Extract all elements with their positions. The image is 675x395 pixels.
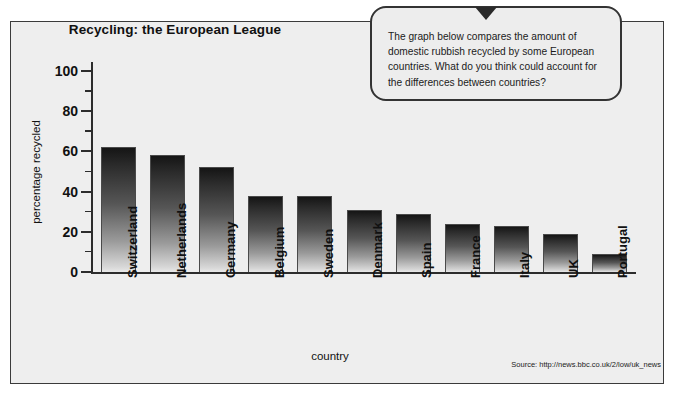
category-label-portugal: Portugal xyxy=(615,225,630,278)
worksheet-page: Recycling: the European League percentag… xyxy=(0,0,675,395)
category-label-germany: Germany xyxy=(223,222,238,278)
y-tick-label: 60 xyxy=(62,143,78,159)
y-axis-label: percentage recycled xyxy=(30,120,42,224)
y-tick-label: 20 xyxy=(62,224,78,240)
category-label-netherlands: Netherlands xyxy=(174,203,189,278)
category-label-belgium: Belgium xyxy=(272,227,287,278)
y-tick-major xyxy=(81,191,92,193)
y-tick-major xyxy=(81,150,92,152)
x-axis-label: country xyxy=(311,350,349,362)
source-caption: Source: http://news.bbc.co.uk/2/low/uk_n… xyxy=(511,360,661,369)
y-tick-minor xyxy=(85,90,92,92)
chart-title: Recycling: the European League xyxy=(0,22,350,37)
category-label-denmark: Denmark xyxy=(370,222,385,278)
y-tick-major xyxy=(81,70,92,72)
instruction-text: The graph below compares the amount of d… xyxy=(388,29,608,90)
category-label-switzerland: Switzerland xyxy=(125,206,140,278)
y-tick-major xyxy=(81,110,92,112)
x-axis-line xyxy=(91,272,636,274)
y-tick-minor xyxy=(85,171,92,173)
y-tick-label: 100 xyxy=(55,63,78,79)
category-label-italy: Italy xyxy=(517,252,532,278)
y-tick-label: 80 xyxy=(62,103,78,119)
category-label-uk: UK xyxy=(566,259,581,278)
y-tick-minor xyxy=(85,251,92,253)
y-tick-major xyxy=(81,231,92,233)
y-tick-minor xyxy=(85,130,92,132)
category-label-spain: Spain xyxy=(419,243,434,278)
category-label-france: France xyxy=(468,235,483,278)
bubble-tail-icon xyxy=(475,7,497,20)
bar-series xyxy=(92,71,632,272)
y-tick-label: 40 xyxy=(62,184,78,200)
instruction-bubble: The graph below compares the amount of d… xyxy=(370,6,622,101)
category-label-sweden: Sweden xyxy=(321,229,336,278)
plot-area: 020406080100 xyxy=(92,71,632,272)
y-tick-minor xyxy=(85,211,92,213)
y-tick-major xyxy=(81,271,92,273)
y-tick-label: 0 xyxy=(70,264,78,280)
